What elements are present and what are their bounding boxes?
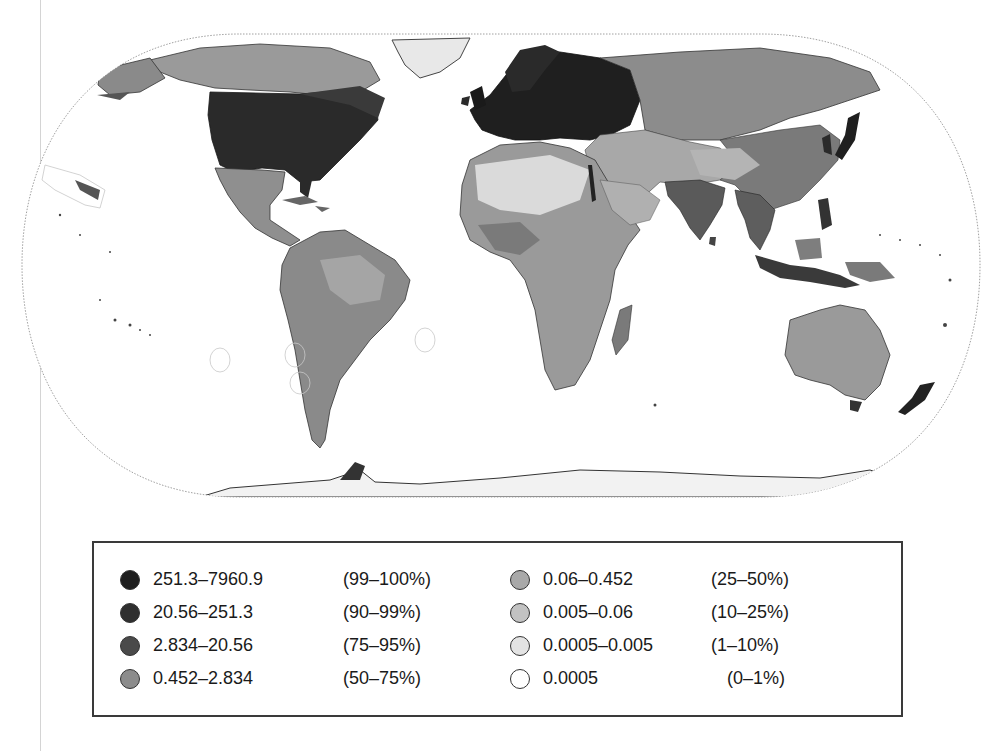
- legend-item: 0.0005–0.005 (1–10%): [510, 629, 789, 662]
- legend-swatch-circle: [510, 636, 530, 656]
- legend-percentile: (0–1%): [711, 668, 785, 689]
- legend-range: 0.0005–0.005: [543, 635, 711, 656]
- legend-item: 0.452–2.834 (50–75%): [120, 662, 431, 695]
- legend-swatch-circle: [510, 603, 530, 623]
- legend-swatch-circle: [510, 570, 530, 590]
- legend-percentile: (25–50%): [711, 569, 789, 590]
- legend-column-right: 0.06–0.452 (25–50%) 0.005–0.06 (10–25%) …: [510, 563, 789, 695]
- legend-range: 2.834–20.56: [153, 635, 343, 656]
- world-map: [0, 0, 1003, 520]
- map-legend: 251.3–7960.9 (99–100%) 20.56–251.3 (90–9…: [92, 541, 903, 717]
- legend-percentile: (90–99%): [343, 602, 421, 623]
- legend-item: 0.0005 (0–1%): [510, 662, 789, 695]
- legend-swatch-circle: [120, 570, 140, 590]
- legend-range: 251.3–7960.9: [153, 569, 343, 590]
- legend-percentile: (99–100%): [343, 569, 431, 590]
- legend-item: 0.005–0.06 (10–25%): [510, 596, 789, 629]
- legend-swatch-circle: [120, 636, 140, 656]
- legend-range: 0.005–0.06: [543, 602, 711, 623]
- legend-item: 251.3–7960.9 (99–100%): [120, 563, 431, 596]
- legend-range: 20.56–251.3: [153, 602, 343, 623]
- legend-swatch-circle: [120, 603, 140, 623]
- legend-range: 0.452–2.834: [153, 668, 343, 689]
- legend-range: 0.06–0.452: [543, 569, 711, 590]
- legend-percentile: (10–25%): [711, 602, 789, 623]
- legend-item: 2.834–20.56 (75–95%): [120, 629, 431, 662]
- legend-percentile: (1–10%): [711, 635, 779, 656]
- legend-swatch-circle: [510, 669, 530, 689]
- legend-range: 0.0005: [543, 668, 711, 689]
- legend-percentile: (50–75%): [343, 668, 421, 689]
- legend-percentile: (75–95%): [343, 635, 421, 656]
- legend-item: 0.06–0.452 (25–50%): [510, 563, 789, 596]
- legend-column-left: 251.3–7960.9 (99–100%) 20.56–251.3 (90–9…: [120, 563, 431, 695]
- legend-item: 20.56–251.3 (90–99%): [120, 596, 431, 629]
- legend-swatch-circle: [120, 669, 140, 689]
